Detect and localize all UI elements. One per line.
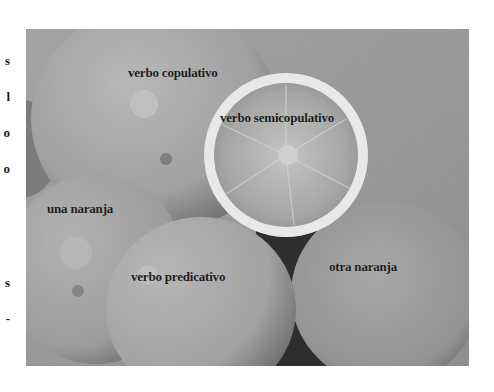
label-verbo-copulativo: verbo copulativo (128, 65, 218, 81)
label-una-naranja: una naranja (47, 201, 113, 217)
cropped-text-fragment: o (0, 162, 10, 175)
label-verbo-predicativo: verbo predicativo (131, 269, 225, 285)
cropped-text-fragment: - (0, 312, 10, 325)
label-otra-naranja: otra naranja (329, 259, 397, 275)
cropped-text-fragment: l (0, 90, 10, 103)
cropped-text-fragment: s (0, 276, 10, 289)
cropped-text-fragment: s (0, 54, 10, 67)
label-verbo-semicopulativo: verbo semicopulativo (220, 110, 334, 126)
cropped-text-fragment: o (0, 126, 10, 139)
oranges-illustration (26, 29, 469, 366)
oranges-photo: verbo copulativo verbo semicopulativo un… (26, 29, 469, 366)
